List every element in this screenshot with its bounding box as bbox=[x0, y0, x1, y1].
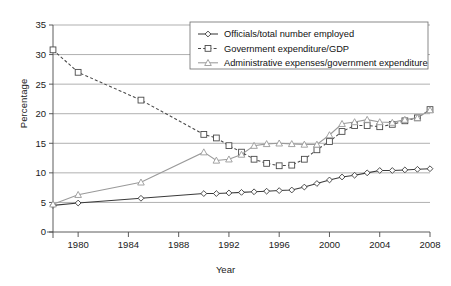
series-0 bbox=[50, 166, 433, 208]
data-point-marker bbox=[276, 163, 282, 169]
data-point-marker bbox=[327, 139, 333, 145]
data-point-marker bbox=[264, 188, 270, 194]
data-point-marker bbox=[251, 189, 257, 195]
data-point-marker bbox=[427, 166, 433, 172]
data-point-marker bbox=[138, 179, 145, 185]
data-point-marker bbox=[289, 187, 295, 193]
data-point-marker bbox=[251, 156, 257, 162]
data-point-marker bbox=[339, 174, 345, 180]
data-point-marker bbox=[301, 156, 307, 162]
chart-container: Percentage Year 051015202530351980198419… bbox=[0, 0, 451, 286]
data-point-marker bbox=[264, 160, 270, 166]
x-tick-label: 1996 bbox=[269, 239, 290, 250]
data-point-marker bbox=[415, 166, 421, 172]
data-point-marker bbox=[201, 132, 207, 138]
y-tick-label: 5 bbox=[41, 197, 46, 208]
y-tick-label: 20 bbox=[35, 108, 46, 119]
data-point-marker bbox=[226, 190, 232, 196]
data-point-marker bbox=[239, 189, 245, 195]
x-tick-label: 1980 bbox=[68, 239, 89, 250]
data-point-marker bbox=[50, 47, 56, 53]
data-point-marker bbox=[201, 191, 207, 197]
legend-label-2: Administrative expenses/government expen… bbox=[224, 58, 428, 68]
data-point-marker bbox=[205, 46, 211, 52]
data-point-marker bbox=[301, 184, 307, 190]
data-point-marker bbox=[75, 69, 81, 75]
x-tick-label: 2004 bbox=[369, 239, 390, 250]
data-point-marker bbox=[75, 200, 81, 206]
data-point-marker bbox=[402, 167, 408, 173]
data-point-marker bbox=[201, 149, 208, 155]
legend-label-1: Government expenditure/GDP bbox=[224, 44, 349, 54]
data-point-marker bbox=[364, 116, 371, 122]
data-point-marker bbox=[327, 177, 333, 183]
y-tick-label: 0 bbox=[41, 226, 46, 237]
x-tick-label: 2000 bbox=[319, 239, 340, 250]
y-tick-label: 35 bbox=[35, 19, 46, 30]
data-point-marker bbox=[138, 195, 144, 201]
y-tick-label: 25 bbox=[35, 79, 46, 90]
data-point-marker bbox=[213, 191, 219, 197]
data-point-marker bbox=[314, 181, 320, 187]
data-point-marker bbox=[50, 201, 57, 207]
line-chart-plot: 0510152025303519801984198819921996200020… bbox=[0, 0, 451, 286]
data-point-marker bbox=[364, 170, 370, 176]
x-tick-label: 2008 bbox=[419, 239, 440, 250]
data-point-marker bbox=[138, 97, 144, 103]
data-point-marker bbox=[289, 162, 295, 168]
y-tick-label: 15 bbox=[35, 138, 46, 149]
data-point-marker bbox=[364, 123, 370, 129]
data-point-marker bbox=[276, 188, 282, 194]
data-point-marker bbox=[339, 129, 345, 135]
x-tick-label: 1984 bbox=[118, 239, 139, 250]
x-tick-label: 1992 bbox=[218, 239, 239, 250]
data-point-marker bbox=[213, 135, 219, 141]
data-point-marker bbox=[314, 147, 320, 153]
y-tick-label: 10 bbox=[35, 167, 46, 178]
chart-legend: Officials/total number employedGovernmen… bbox=[190, 22, 428, 69]
data-point-marker bbox=[226, 143, 232, 149]
series-line bbox=[53, 169, 430, 206]
x-tick-label: 1988 bbox=[168, 239, 189, 250]
y-tick-label: 30 bbox=[35, 49, 46, 60]
legend-label-0: Officials/total number employed bbox=[224, 29, 354, 39]
